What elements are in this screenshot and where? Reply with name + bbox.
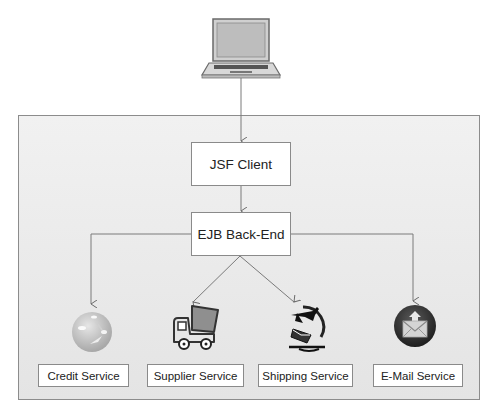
ejb-backend-label: EJB Back-End xyxy=(197,227,284,242)
dump-truck-icon xyxy=(170,302,222,354)
email-service-label: E-Mail Service xyxy=(381,370,455,382)
email-service-node: E-Mail Service xyxy=(373,364,463,387)
credit-service-node: Credit Service xyxy=(38,364,129,387)
laptop-icon xyxy=(200,14,282,80)
airplane-globe-mail-icon xyxy=(283,303,329,353)
credit-service-label: Credit Service xyxy=(47,370,119,382)
supplier-service-label: Supplier Service xyxy=(154,370,238,382)
shipping-service-node: Shipping Service xyxy=(258,364,353,387)
envelope-circle-icon xyxy=(392,303,438,349)
arrow-ejb-to-email xyxy=(290,234,413,301)
jsf-client-node: JSF Client xyxy=(191,142,291,186)
globe-icon xyxy=(68,308,116,356)
ejb-backend-node: EJB Back-End xyxy=(191,212,291,256)
jsf-client-label: JSF Client xyxy=(210,157,272,172)
arrow-ejb-to-credit xyxy=(91,234,191,304)
arrow-ejb-to-supplier xyxy=(193,256,240,302)
supplier-service-node: Supplier Service xyxy=(147,364,244,387)
shipping-service-label: Shipping Service xyxy=(262,370,348,382)
arrow-ejb-to-shipping xyxy=(240,256,294,302)
